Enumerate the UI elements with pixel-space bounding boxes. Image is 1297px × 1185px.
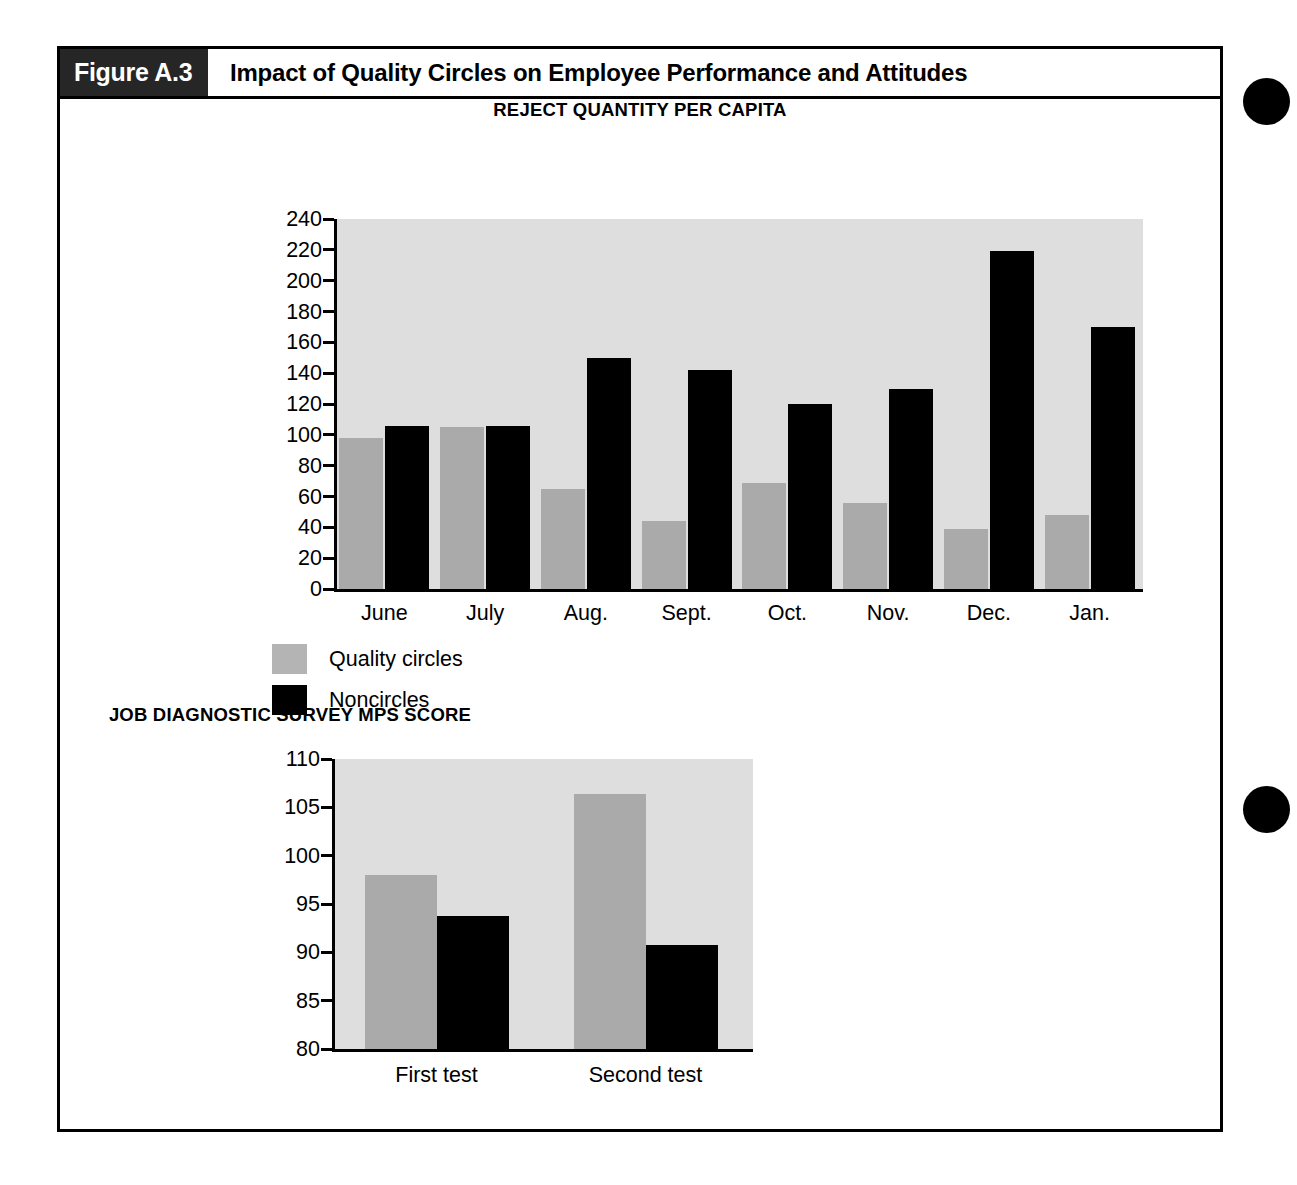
y-axis-tick-label: 100 [284,843,320,868]
bar-noncircles [646,945,718,1049]
y-axis-tick-mark [323,341,334,344]
figure-number: Figure A.3 [60,49,208,96]
bar-noncircles [990,251,1034,589]
page-thumb-dot-icon [1243,786,1290,833]
x-axis-tick-label: Oct. [768,601,807,626]
legend-item-quality-circles: Quality circles [272,644,463,674]
x-axis-tick-label: Aug. [564,601,608,626]
y-axis-tick-label: 120 [286,392,322,417]
x-axis-tick-label: Nov. [867,601,910,626]
bar-quality-circles [440,427,484,589]
y-axis-tick-mark [321,758,332,761]
bar-quality-circles [944,529,988,589]
y-axis-tick-label: 95 [296,892,320,917]
bar-quality-circles [742,483,786,589]
y-axis-tick-label: 20 [298,546,322,571]
page-thumb-dot-icon [1243,78,1290,125]
figure-header: Figure A.3 Impact of Quality Circles on … [60,49,1220,99]
y-axis-tick-label: 200 [286,268,322,293]
y-axis-tick-mark [323,248,334,251]
chart-bottom-plot: 80859095100105110First testSecond test [60,704,820,1104]
bar-noncircles [889,389,933,589]
bar-noncircles [788,404,832,589]
bar-quality-circles [365,875,437,1049]
bar-quality-circles [541,489,585,589]
y-axis-tick-mark [323,279,334,282]
y-axis-tick-mark [321,903,332,906]
bar-noncircles [587,358,631,589]
figure-frame: Figure A.3 Impact of Quality Circles on … [57,46,1223,1132]
bar-quality-circles [642,521,686,589]
y-axis-tick-label: 105 [284,795,320,820]
y-axis-tick-mark [323,464,334,467]
y-axis-tick-mark [321,1048,332,1051]
x-axis-tick-label: Second test [589,1063,703,1088]
y-axis-tick-mark [323,218,334,221]
bar-noncircles [437,916,509,1049]
y-axis-tick-label: 160 [286,330,322,355]
bar-noncircles [688,370,732,589]
bar-quality-circles [574,794,646,1049]
x-axis-tick-label: Jan. [1069,601,1110,626]
y-axis-tick-label: 40 [298,515,322,540]
legend-label: Quality circles [329,647,463,672]
x-axis-tick-label: Sept. [662,601,712,626]
y-axis-tick-label: 220 [286,237,322,262]
figure-title: Impact of Quality Circles on Employee Pe… [208,49,1220,96]
x-axis-tick-label: June [361,601,408,626]
y-axis-tick-label: 180 [286,299,322,324]
y-axis-tick-mark [321,951,332,954]
x-axis-tick-label: July [466,601,504,626]
y-axis-tick-mark [323,495,334,498]
y-axis-tick-mark [323,526,334,529]
chart-jds-mps-score: JOB DIAGNOSTIC SURVEY MPS SCORE 80859095… [60,704,1220,1124]
y-axis-tick-mark [321,854,332,857]
y-axis-tick-label: 60 [298,484,322,509]
y-axis-tick-mark [323,588,334,591]
bar-quality-circles [843,503,887,589]
y-axis-tick-label: 110 [286,747,320,772]
y-axis-tick-label: 140 [286,361,322,386]
y-axis-tick-label: 80 [298,453,322,478]
y-axis-tick-mark [323,433,334,436]
bar-quality-circles [339,438,383,589]
y-axis-tick-label: 85 [296,988,320,1013]
bar-noncircles [486,426,530,589]
chart-top-plot: 020406080100120140160180200220240JuneJul… [60,99,1220,659]
y-axis-tick-mark [321,999,332,1002]
bar-quality-circles [1045,515,1089,589]
y-axis-tick-mark [321,806,332,809]
y-axis-tick-label: 240 [286,207,322,232]
y-axis-tick-label: 80 [296,1037,320,1062]
y-axis-tick-mark [323,557,334,560]
legend-swatch-icon [272,644,307,674]
y-axis-tick-mark [323,403,334,406]
chart-reject-quantity: REJECT QUANTITY PER CAPITA 0204060801001… [60,99,1220,699]
y-axis-tick-label: 100 [286,422,322,447]
x-axis-tick-label: First test [395,1063,477,1088]
y-axis-tick-label: 90 [296,940,320,965]
y-axis-tick-mark [323,310,334,313]
y-axis-tick-label: 0 [310,577,322,602]
y-axis-tick-mark [323,372,334,375]
bar-noncircles [1091,327,1135,589]
x-axis-tick-label: Dec. [967,601,1011,626]
bar-noncircles [385,426,429,589]
